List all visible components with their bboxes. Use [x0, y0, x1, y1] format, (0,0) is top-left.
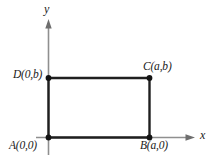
vertex-label-c: C(a,b): [143, 61, 172, 73]
x-axis-arrow-icon: [186, 134, 196, 140]
vertex-markers: [46, 75, 153, 140]
rectangle-abcd: [49, 78, 150, 138]
vertex-label-b: B(a,0): [140, 140, 168, 152]
y-axis-label: y: [44, 3, 49, 15]
vertex-dot-a: [46, 135, 52, 141]
vertex-dot-d: [46, 75, 52, 81]
vertex-dot-c: [147, 75, 153, 81]
x-axis-label: x: [200, 129, 205, 141]
vertex-label-a: A(0,0): [9, 140, 37, 152]
y-axis-arrow-icon: [45, 19, 51, 29]
axes-group: [36, 19, 195, 155]
coordinate-diagram: y x D(0,b) C(a,b) A(0,0) B(a,0): [0, 0, 215, 163]
vertex-label-d: D(0,b): [13, 69, 42, 81]
